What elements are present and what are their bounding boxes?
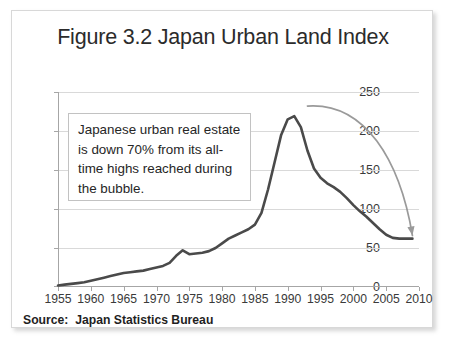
x-tick-mark	[157, 287, 158, 291]
x-tick-label: 2010	[405, 292, 432, 306]
x-tick-mark	[255, 287, 256, 291]
x-tick-mark	[124, 287, 125, 291]
x-tick-label: 1985	[241, 292, 268, 306]
x-tick-mark	[222, 287, 223, 291]
x-tick-mark	[353, 287, 354, 291]
x-axis-tick-labels: 1955 1960 1965 1970 1975 1980 1985 1990 …	[58, 292, 419, 310]
x-tick-label: 1995	[307, 292, 334, 306]
x-tick-label: 2005	[373, 292, 400, 306]
x-tick-label: 1960	[77, 292, 104, 306]
x-tick-mark	[189, 287, 190, 291]
x-tick-mark	[419, 287, 420, 291]
x-tick-mark	[58, 287, 59, 291]
source-note: Source: Japan Statistics Bureau	[23, 313, 213, 327]
annotation-textbox: Japanese urban real estate is down 70% f…	[68, 113, 251, 201]
x-tick-label: 1955	[44, 292, 71, 306]
x-tick-label: 1990	[274, 292, 301, 306]
x-tick-label: 1965	[110, 292, 137, 306]
x-tick-label: 1970	[143, 292, 170, 306]
page-title: Figure 3.2 Japan Urban Land Index	[12, 25, 434, 50]
callout-arrow-icon	[307, 106, 412, 236]
x-tick-label: 1980	[209, 292, 236, 306]
x-tick-label: 2000	[340, 292, 367, 306]
x-tick-label: 1975	[176, 292, 203, 306]
figure-container: Figure 3.2 Japan Urban Land Index 250 20…	[11, 10, 433, 328]
x-tick-mark	[321, 287, 322, 291]
x-tick-mark	[91, 287, 92, 291]
x-tick-mark	[288, 287, 289, 291]
arrowhead-icon	[407, 226, 414, 235]
x-tick-mark	[386, 287, 387, 291]
